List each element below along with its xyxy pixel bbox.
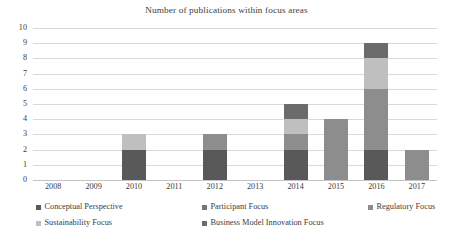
x-tick-label-2008: 2008 <box>33 182 73 191</box>
legend-label: Regulatory Focus <box>377 203 436 211</box>
bar-group-2008 <box>33 28 73 180</box>
x-tick-label-2012: 2012 <box>195 182 235 191</box>
x-tick-label-2011: 2011 <box>154 182 194 191</box>
bar-segment[interactable] <box>284 134 308 149</box>
bar-segment[interactable] <box>405 150 429 180</box>
y-tick-label-9: 9 <box>3 39 27 47</box>
bar-group-2015 <box>316 28 356 180</box>
bar-group-2017 <box>397 28 437 180</box>
bar-stack-2010[interactable] <box>122 134 146 180</box>
bar-segment[interactable] <box>364 58 388 88</box>
x-tick-label-2009: 2009 <box>73 182 113 191</box>
bar-group-2014 <box>275 28 315 180</box>
legend-label: Conceptual Perspective <box>45 203 123 211</box>
legend-swatch-icon <box>36 221 41 226</box>
legend-label: Business Model Innovation Focus <box>211 219 324 227</box>
x-axis-tick-labels: 2008200920102011201220132014201520162017 <box>33 182 437 196</box>
y-tick-label-1: 1 <box>3 161 27 169</box>
legend-row: Sustainability FocusBusiness Model Innov… <box>36 219 446 235</box>
bar-segment[interactable] <box>122 150 146 180</box>
bar-segment[interactable] <box>203 134 227 149</box>
bar-group-2010 <box>114 28 154 180</box>
y-tick-label-6: 6 <box>3 85 27 93</box>
bar-stack-2017[interactable] <box>405 150 429 180</box>
bar-group-2013 <box>235 28 275 180</box>
bar-segment[interactable] <box>364 150 388 180</box>
legend-item[interactable]: Participant Focus <box>202 203 268 211</box>
legend-item[interactable]: Sustainability Focus <box>36 219 112 227</box>
bar-segment[interactable] <box>284 104 308 119</box>
x-tick-label-2015: 2015 <box>316 182 356 191</box>
x-tick-label-2016: 2016 <box>356 182 396 191</box>
bar-group-2016 <box>356 28 396 180</box>
y-tick-label-4: 4 <box>3 115 27 123</box>
bar-stack-2016[interactable] <box>364 43 388 180</box>
legend-label: Participant Focus <box>211 203 269 211</box>
legend-swatch-icon <box>368 205 373 210</box>
bar-group-2012 <box>195 28 235 180</box>
bar-segment[interactable] <box>284 119 308 134</box>
x-tick-label-2017: 2017 <box>397 182 437 191</box>
chart-legend: Conceptual PerspectiveParticipant FocusR… <box>36 203 446 235</box>
bar-segment[interactable] <box>324 119 348 180</box>
bar-group-2009 <box>73 28 113 180</box>
y-tick-label-7: 7 <box>3 70 27 78</box>
plot-area <box>33 28 437 180</box>
bar-segment[interactable] <box>284 150 308 180</box>
y-tick-label-5: 5 <box>3 100 27 108</box>
bar-stack-2012[interactable] <box>203 134 227 180</box>
legend-item[interactable]: Conceptual Perspective <box>36 203 123 211</box>
bar-group-2011 <box>154 28 194 180</box>
bar-stack-2014[interactable] <box>284 104 308 180</box>
legend-label: Sustainability Focus <box>45 219 113 227</box>
legend-item[interactable]: Business Model Innovation Focus <box>202 219 324 227</box>
gridline-0 <box>33 180 437 181</box>
x-tick-label-2014: 2014 <box>275 182 315 191</box>
x-tick-label-2010: 2010 <box>114 182 154 191</box>
y-tick-label-8: 8 <box>3 54 27 62</box>
chart-title: Number of publications within focus area… <box>0 5 453 15</box>
bars-layer <box>33 28 437 180</box>
y-tick-label-0: 0 <box>3 176 27 184</box>
bar-segment[interactable] <box>122 134 146 149</box>
chart-container: Number of publications within focus area… <box>0 0 453 248</box>
x-tick-label-2013: 2013 <box>235 182 275 191</box>
y-tick-label-10: 10 <box>3 24 27 32</box>
legend-row: Conceptual PerspectiveParticipant FocusR… <box>36 203 446 219</box>
bar-segment[interactable] <box>364 43 388 58</box>
legend-item[interactable]: Regulatory Focus <box>368 203 435 211</box>
y-tick-label-2: 2 <box>3 146 27 154</box>
y-tick-label-3: 3 <box>3 130 27 138</box>
bar-segment[interactable] <box>364 89 388 150</box>
legend-swatch-icon <box>202 221 207 226</box>
bar-stack-2015[interactable] <box>324 119 348 180</box>
legend-swatch-icon <box>36 205 41 210</box>
legend-swatch-icon <box>202 205 207 210</box>
bar-segment[interactable] <box>203 150 227 180</box>
